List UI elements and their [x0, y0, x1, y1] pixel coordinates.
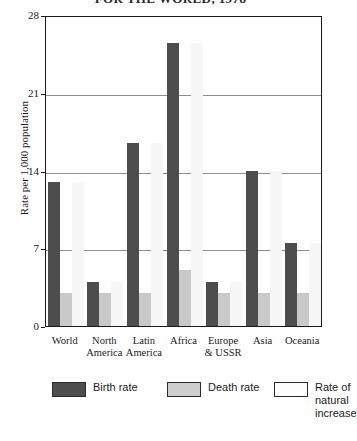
bar-death — [179, 270, 191, 326]
legend-label: Death rate — [208, 381, 259, 394]
legend-swatch-increase — [274, 382, 308, 397]
bar-group — [127, 17, 163, 326]
bar-increase — [270, 171, 282, 327]
bar-group — [87, 17, 123, 326]
legend-swatch-birth — [52, 382, 86, 397]
bar-birth — [285, 243, 297, 326]
chart-title-container: FOR THE WORLD, 1978 — [0, 0, 341, 7]
legend-item: Death rate — [167, 381, 259, 397]
chart-legend: Birth rateDeath rateRate of natural incr… — [52, 381, 337, 441]
bar-birth — [127, 143, 139, 326]
legend-swatch-death — [167, 382, 201, 397]
bar-birth — [246, 171, 258, 327]
bar-death — [139, 293, 151, 326]
x-tick-label: Oceania — [275, 335, 329, 347]
legend-item: Rate of natural increase — [274, 381, 357, 420]
bar-increase — [230, 282, 242, 326]
bar-group — [48, 17, 84, 326]
bar-birth — [48, 182, 60, 326]
bar-group — [246, 17, 282, 326]
x-tick-label-line: Oceania — [275, 335, 329, 347]
legend-label: Rate of natural increase — [315, 381, 357, 420]
y-tick-mark — [41, 327, 45, 328]
x-tick-label-line: & USSR — [196, 347, 250, 359]
bar-birth — [167, 43, 179, 326]
bar-increase — [111, 282, 123, 326]
bar-death — [297, 293, 309, 326]
y-tick-label: 28 — [9, 9, 39, 21]
y-tick-label: 0 — [9, 320, 39, 332]
y-tick-label: 7 — [9, 242, 39, 254]
bar-birth — [206, 282, 218, 326]
bar-group — [285, 17, 321, 326]
bar-increase — [72, 182, 84, 326]
legend-item: Birth rate — [52, 381, 138, 397]
bar-birth — [87, 282, 99, 326]
bar-death — [60, 293, 72, 326]
bar-death — [99, 293, 111, 326]
y-tick-label: 21 — [9, 87, 39, 99]
bar-group — [167, 17, 203, 326]
bar-increase — [151, 143, 163, 326]
bar-group — [206, 17, 242, 326]
y-tick-label: 14 — [9, 165, 39, 177]
x-tick-label-line: America — [117, 347, 171, 359]
bar-death — [218, 293, 230, 326]
page-title: FOR THE WORLD, 1978 — [0, 0, 341, 7]
plot-area — [45, 16, 322, 327]
bar-increase — [191, 43, 203, 326]
bar-increase — [309, 243, 321, 326]
legend-label: Birth rate — [93, 381, 138, 394]
bar-death — [258, 293, 270, 326]
